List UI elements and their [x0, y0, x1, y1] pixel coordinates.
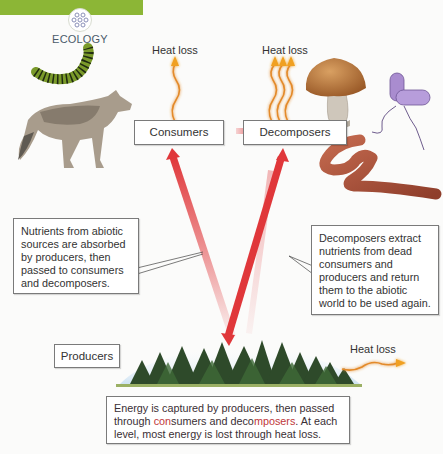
heat-loss-label-producers: Heat loss [350, 343, 396, 355]
heat-loss-label-consumers: Heat loss [152, 44, 198, 56]
decomposers-node: Decomposers [243, 120, 347, 145]
heat-wave-consumers [171, 56, 180, 122]
decomposers-to-producers-arrow [221, 148, 289, 346]
mushroom-illustration [306, 58, 366, 129]
earthworm-illustration [325, 140, 436, 194]
energy-flow-caption: Energy is captured by producers, then pa… [106, 396, 350, 444]
caption-highlight-consumers-a: con [154, 415, 171, 427]
producers-to-consumers-arrow [166, 148, 236, 338]
caption-highlight-consumers-b: sumers [171, 415, 206, 427]
caterpillar-illustration [36, 48, 89, 79]
heat-wave-producers [342, 359, 406, 370]
caption-highlight-decomposers: mposers [254, 415, 295, 427]
bacterium-illustration [372, 73, 430, 150]
caption-text-mid: and deco [206, 415, 253, 427]
heat-loss-label-decomposers: Heat loss [262, 44, 308, 56]
nutrient-absorption-callout: Nutrients from abiotic sources are absor… [13, 218, 139, 294]
left-callout-leader [137, 252, 203, 274]
producers-node: Producers [54, 344, 120, 368]
decomposer-nutrient-callout: Decomposers extract nutrients from dead … [311, 225, 439, 315]
heat-wave-decomposers [269, 56, 295, 122]
wolf-illustration [18, 90, 132, 168]
forest-illustration [116, 340, 362, 387]
right-callout-leader [289, 256, 313, 274]
consumers-node: Consumers [134, 120, 224, 145]
